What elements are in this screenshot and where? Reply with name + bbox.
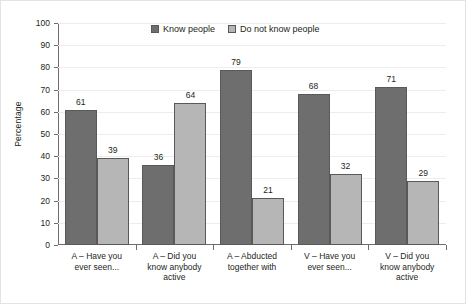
bar-group: 7921 xyxy=(213,23,291,245)
bar-value-label: 79 xyxy=(231,58,240,67)
y-axis-tick-label: 0 xyxy=(22,241,50,250)
x-axis-group-tick xyxy=(291,245,292,250)
x-axis-category-label: A – Have youever seen... xyxy=(58,251,136,272)
x-axis-category-label: A – Abductedtogether with xyxy=(213,251,291,272)
bar[interactable]: 64 xyxy=(174,103,206,245)
bar-value-label: 29 xyxy=(418,169,427,178)
bar-value-label: 36 xyxy=(154,153,163,162)
bar-value-label: 32 xyxy=(341,162,350,171)
bar-value-label: 68 xyxy=(309,82,318,91)
x-axis-group-tick xyxy=(446,245,447,250)
x-axis-category-label: V – Did youknow anybodyactive xyxy=(368,251,446,283)
bar[interactable]: 21 xyxy=(252,198,284,245)
bar-value-label: 21 xyxy=(263,186,272,195)
y-axis-tick-label: 70 xyxy=(22,86,50,95)
x-axis-group-tick xyxy=(213,245,214,250)
bar[interactable]: 32 xyxy=(330,174,362,245)
y-axis-tick xyxy=(54,245,58,246)
bar[interactable]: 29 xyxy=(407,181,439,245)
bar-value-label: 39 xyxy=(108,146,117,155)
x-axis-group-tick xyxy=(368,245,369,250)
plot-area: 0102030405060708090100 61393664792168327… xyxy=(58,23,446,245)
x-axis-category-label: A – Did youknow anybodyactive xyxy=(136,251,214,283)
y-axis-tick-label: 40 xyxy=(22,152,50,161)
bar[interactable]: 36 xyxy=(142,165,174,245)
y-axis-tick-label: 30 xyxy=(22,174,50,183)
bar-group: 6832 xyxy=(291,23,369,245)
bar-group: 6139 xyxy=(58,23,136,245)
bar-value-label: 71 xyxy=(386,75,395,84)
y-axis-tick-label: 50 xyxy=(22,130,50,139)
y-axis-tick-label: 100 xyxy=(22,19,50,28)
x-axis-category-label: V – Have youever seen... xyxy=(291,251,369,272)
bar[interactable]: 39 xyxy=(97,158,129,245)
bar[interactable]: 71 xyxy=(375,87,407,245)
x-axis-group-tick xyxy=(136,245,137,250)
y-axis-tick-label: 90 xyxy=(22,41,50,50)
bar-group: 3664 xyxy=(136,23,214,245)
y-axis-tick-label: 20 xyxy=(22,197,50,206)
y-axis-tick-label: 80 xyxy=(22,63,50,72)
y-axis-tick-label: 60 xyxy=(22,108,50,117)
bar-group: 7129 xyxy=(368,23,446,245)
bar[interactable]: 61 xyxy=(65,110,97,245)
bar-value-label: 64 xyxy=(186,91,195,100)
chart-figure: Percentage Know people Do not know peopl… xyxy=(0,0,466,304)
bar-value-label: 61 xyxy=(76,98,85,107)
bar[interactable]: 68 xyxy=(298,94,330,245)
bar[interactable]: 79 xyxy=(220,70,252,245)
y-axis-tick-label: 10 xyxy=(22,219,50,228)
